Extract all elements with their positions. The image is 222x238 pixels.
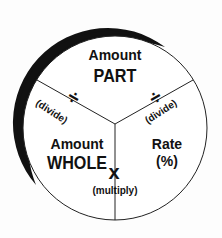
whole-amount-label: Amount	[42, 136, 112, 152]
part-amount-label: Amount	[80, 47, 150, 63]
multiply-icon: x	[104, 161, 124, 184]
part-label: PART	[85, 65, 145, 87]
circle-diagram	[0, 0, 222, 238]
rate-label: Rate	[142, 136, 192, 152]
percent-label: (%)	[142, 153, 192, 169]
multiply-label: (multiply)	[90, 185, 140, 196]
whole-label: WHOLE	[43, 152, 111, 174]
